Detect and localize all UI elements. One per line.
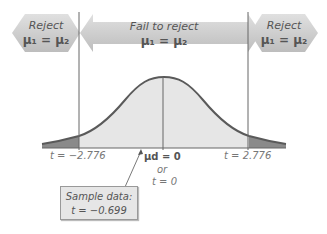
center-label: Fail to reject μ₁ = μ₂ — [120, 20, 208, 48]
sample-data-box: Sample data: t = −0.699 — [60, 186, 138, 220]
right-reject-text: Reject — [256, 19, 312, 33]
left-reject-label: Reject μ₁ = μ₂ — [18, 19, 74, 47]
left-critical-value: t = −2.776 — [50, 150, 106, 161]
mu-d-label: μd = 0 — [144, 151, 181, 162]
right-critical-value: t = 2.776 — [224, 150, 271, 161]
right-hypothesis: μ₁ = μ₂ — [256, 33, 312, 47]
sample-data-title: Sample data: — [61, 190, 137, 204]
sample-pointer-arrowhead — [138, 149, 143, 155]
left-hypothesis: μ₁ = μ₂ — [18, 33, 74, 47]
sample-data-value: t = −0.699 — [61, 204, 137, 218]
center-t-label: t = 0 — [152, 176, 177, 187]
center-fail-text: Fail to reject — [120, 20, 208, 34]
left-reject-text: Reject — [18, 19, 74, 33]
center-hypothesis: μ₁ = μ₂ — [120, 34, 208, 48]
right-reject-label: Reject μ₁ = μ₂ — [256, 19, 312, 47]
center-region-fill — [79, 77, 249, 148]
sample-pointer-line — [125, 151, 141, 187]
or-label: or — [157, 164, 167, 175]
